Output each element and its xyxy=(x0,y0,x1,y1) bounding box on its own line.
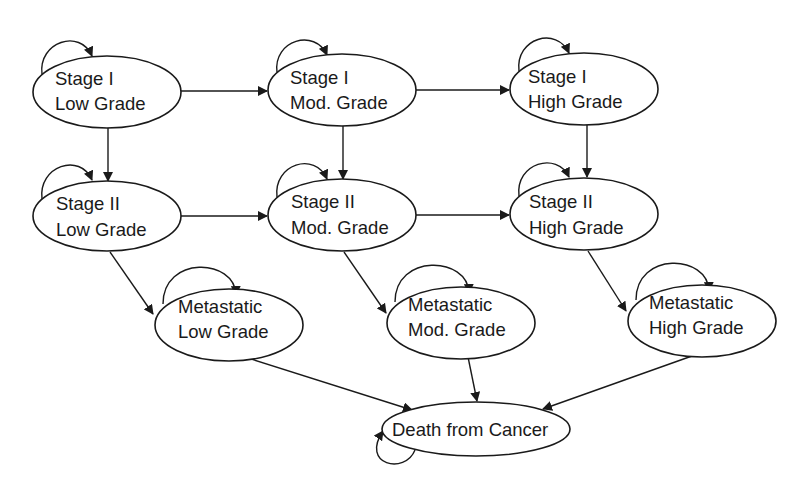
svg-text:Metastatic: Metastatic xyxy=(649,292,733,313)
svg-text:High Grade: High Grade xyxy=(529,217,624,238)
svg-text:Stage I: Stage I xyxy=(290,67,349,88)
node-stage2-low-grade: Stage II Low Grade xyxy=(33,181,181,251)
node-metastatic-high-grade: Metastatic High Grade xyxy=(628,285,776,357)
node-stage1-low-grade: Stage I Low Grade xyxy=(33,56,181,128)
edge-ml-d xyxy=(232,353,412,410)
node-metastatic-low-grade: Metastatic Low Grade xyxy=(155,289,303,361)
svg-text:Low Grade: Low Grade xyxy=(56,219,147,240)
svg-text:Stage I: Stage I xyxy=(528,66,587,87)
svg-text:Stage II: Stage II xyxy=(291,191,355,212)
svg-text:Mod. Grade: Mod. Grade xyxy=(408,319,506,340)
svg-text:Low Grade: Low Grade xyxy=(55,93,146,114)
svg-text:Low Grade: Low Grade xyxy=(178,321,269,342)
node-metastatic-mod-grade: Metastatic Mod. Grade xyxy=(387,287,535,359)
svg-text:High Grade: High Grade xyxy=(649,317,744,338)
node-stage1-high-grade: Stage I High Grade xyxy=(510,53,658,125)
svg-text:Stage I: Stage I xyxy=(55,68,114,89)
svg-text:Stage II: Stage II xyxy=(529,191,593,212)
svg-text:Metastatic: Metastatic xyxy=(178,296,262,317)
svg-text:Stage II: Stage II xyxy=(56,193,120,214)
state-transition-diagram: Stage I Low Grade Stage I Mod. Grade Sta… xyxy=(0,0,794,487)
svg-text:High Grade: High Grade xyxy=(528,91,623,112)
edge-s2l-ml xyxy=(110,252,153,314)
node-stage2-high-grade: Stage II High Grade xyxy=(510,178,658,250)
svg-text:Mod. Grade: Mod. Grade xyxy=(291,217,389,238)
edge-s2m-mm xyxy=(344,252,386,313)
edge-mh-d xyxy=(543,351,706,409)
svg-text:Mod. Grade: Mod. Grade xyxy=(290,92,388,113)
node-stage1-mod-grade: Stage I Mod. Grade xyxy=(268,54,416,126)
node-stage2-mod-grade: Stage II Mod. Grade xyxy=(268,179,416,251)
svg-text:Death from Cancer: Death from Cancer xyxy=(392,419,548,440)
transition-edges xyxy=(108,90,706,410)
svg-text:Metastatic: Metastatic xyxy=(408,294,492,315)
node-death-from-cancer: Death from Cancer xyxy=(382,402,570,456)
edge-s2h-mh xyxy=(588,251,626,311)
